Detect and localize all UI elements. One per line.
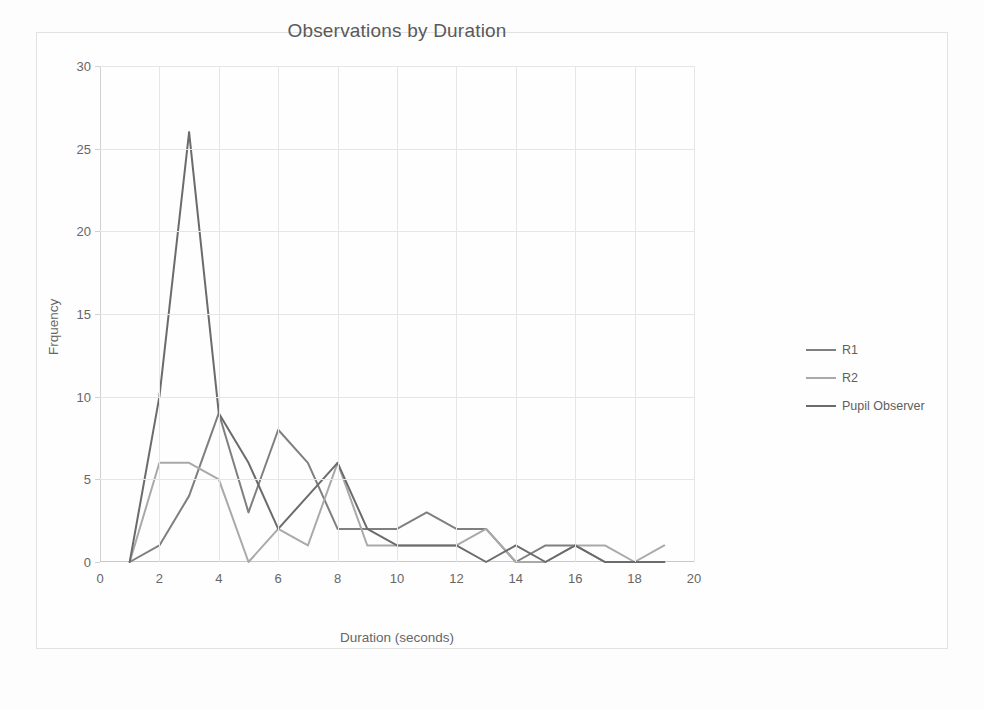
x-tick-label: 10 bbox=[390, 571, 404, 586]
y-tick-mark bbox=[95, 479, 100, 480]
y-tick-mark bbox=[95, 66, 100, 67]
chart-legend: R1R2Pupil Observer bbox=[806, 336, 925, 420]
x-tick-label: 12 bbox=[449, 571, 463, 586]
gridline-vertical bbox=[456, 66, 457, 562]
y-tick-mark bbox=[95, 149, 100, 150]
y-tick-label: 0 bbox=[84, 555, 91, 570]
legend-label: Pupil Observer bbox=[842, 399, 925, 413]
x-tick-label: 2 bbox=[156, 571, 163, 586]
legend-item-pupil-observer[interactable]: Pupil Observer bbox=[806, 392, 925, 420]
legend-label: R2 bbox=[842, 371, 858, 385]
gridline-vertical bbox=[397, 66, 398, 562]
legend-item-r1[interactable]: R1 bbox=[806, 336, 925, 364]
x-tick-label: 8 bbox=[334, 571, 341, 586]
x-tick-label: 6 bbox=[275, 571, 282, 586]
gridline-vertical bbox=[694, 66, 695, 562]
gridline-vertical bbox=[159, 66, 160, 562]
legend-swatch-icon bbox=[806, 405, 836, 408]
y-tick-mark bbox=[95, 562, 100, 563]
gridline-vertical bbox=[635, 66, 636, 562]
gridline-vertical bbox=[575, 66, 576, 562]
x-tick-label: 16 bbox=[568, 571, 582, 586]
y-tick-label: 15 bbox=[77, 307, 91, 322]
legend-item-r2[interactable]: R2 bbox=[806, 364, 925, 392]
y-tick-label: 25 bbox=[77, 141, 91, 156]
x-tick-label: 0 bbox=[96, 571, 103, 586]
legend-label: R1 bbox=[842, 343, 858, 357]
y-axis-title: Frquency bbox=[46, 299, 61, 355]
chart-title: Observations by Duration bbox=[100, 20, 694, 42]
legend-swatch-icon bbox=[806, 349, 836, 352]
legend-swatch-icon bbox=[806, 377, 836, 380]
x-tick-label: 4 bbox=[215, 571, 222, 586]
x-axis-title: Duration (seconds) bbox=[100, 630, 694, 645]
x-tick-label: 14 bbox=[509, 571, 523, 586]
y-tick-mark bbox=[95, 231, 100, 232]
y-tick-label: 5 bbox=[84, 472, 91, 487]
gridline-vertical bbox=[278, 66, 279, 562]
plot-area: 05101520253002468101214161820 bbox=[100, 66, 694, 562]
y-tick-label: 30 bbox=[77, 59, 91, 74]
gridline-vertical bbox=[516, 66, 517, 562]
y-tick-mark bbox=[95, 314, 100, 315]
x-tick-label: 20 bbox=[687, 571, 701, 586]
gridline-vertical bbox=[219, 66, 220, 562]
y-tick-label: 10 bbox=[77, 389, 91, 404]
x-tick-label: 18 bbox=[627, 571, 641, 586]
y-tick-label: 20 bbox=[77, 224, 91, 239]
y-tick-mark bbox=[95, 397, 100, 398]
gridline-vertical bbox=[338, 66, 339, 562]
